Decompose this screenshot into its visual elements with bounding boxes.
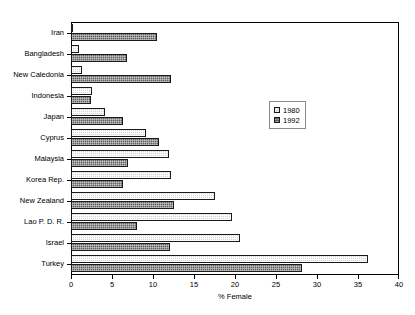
bar-1980-israel (71, 234, 240, 242)
legend-label-1992: 1992 (283, 116, 300, 125)
bar-1980-malaysia (71, 150, 169, 158)
bar-group (71, 127, 399, 148)
legend-label-1980: 1980 (283, 106, 300, 115)
bar-1992-korea-rep (71, 180, 123, 188)
x-axis-tick (276, 275, 277, 279)
bar-group (71, 64, 399, 85)
bar-group (71, 191, 399, 212)
y-axis-label-bangladesh: Bangladesh (24, 49, 64, 58)
y-axis-label-israel: Israel (46, 238, 64, 247)
bar-1980-new-caledonia (71, 66, 82, 74)
bar-group (71, 22, 399, 43)
x-axis-tick-label: 25 (272, 280, 280, 289)
bar-group (71, 233, 399, 254)
bar-group (71, 149, 399, 170)
y-axis-label-new-caledonia: New Caledonia (13, 70, 64, 79)
y-axis-label-malaysia: Malaysia (34, 154, 64, 163)
x-axis-tick-label: 10 (149, 280, 157, 289)
x-axis-tick-label: 35 (354, 280, 362, 289)
bar-1980-japan (71, 108, 105, 116)
x-axis-tick-label: 0 (69, 280, 73, 289)
bar-1980-new-zealand (71, 192, 215, 200)
bar-1992-cyprus (71, 138, 159, 146)
legend-swatch-1980-icon (274, 107, 280, 113)
y-axis-label-iran: Iran (51, 28, 64, 37)
bar-1992-bangladesh (71, 54, 127, 62)
bar-1980-indonesia (71, 87, 92, 95)
x-axis-tick (358, 275, 359, 279)
bar-1980-lao-p-d-r (71, 213, 232, 221)
bar-1980-korea-rep (71, 171, 171, 179)
bar-1992-malaysia (71, 159, 128, 167)
bar-group (71, 254, 399, 275)
legend: 1980 1992 (269, 101, 306, 129)
y-axis-label-lao-p-d-r: Lao P. D. R. (24, 217, 64, 226)
x-axis-tick-label: 30 (313, 280, 321, 289)
y-axis-label-japan: Japan (44, 112, 64, 121)
bar-1992-new-zealand (71, 201, 174, 209)
bar-group (71, 43, 399, 64)
bar-group (71, 212, 399, 233)
y-axis-category-labels: IranBangladeshNew CaledoniaIndonesiaJapa… (0, 22, 69, 275)
bar-1992-japan (71, 117, 123, 125)
bars-container (71, 22, 399, 275)
x-axis-tick-label: 15 (190, 280, 198, 289)
bar-1980-bangladesh (71, 45, 79, 53)
y-axis-label-turkey: Turkey (41, 259, 64, 268)
bar-1992-indonesia (71, 96, 91, 104)
x-axis-tick-label: 20 (231, 280, 239, 289)
x-axis-tick-label: 5 (110, 280, 114, 289)
bar-1980-turkey (71, 255, 368, 263)
bar-1980-iran (71, 24, 73, 32)
legend-swatch-1992-icon (274, 117, 280, 123)
x-axis-tick-label: 40 (395, 280, 403, 289)
bar-chart: IranBangladeshNew CaledoniaIndonesiaJapa… (0, 0, 415, 315)
y-axis-label-indonesia: Indonesia (31, 91, 64, 100)
y-axis-label-new-zealand: New Zealand (20, 196, 64, 205)
bar-group (71, 85, 399, 106)
x-axis-title: % Female (71, 292, 399, 301)
x-axis-tick (194, 275, 195, 279)
bar-1992-iran (71, 33, 157, 41)
legend-item-1980: 1980 (274, 105, 300, 115)
legend-item-1992: 1992 (274, 115, 300, 125)
y-axis-label-cyprus: Cyprus (40, 133, 64, 142)
bar-1992-new-caledonia (71, 75, 171, 83)
bar-1992-lao-p-d-r (71, 222, 137, 230)
bar-1992-turkey (71, 264, 302, 272)
x-axis-tick (235, 275, 236, 279)
bar-group (71, 170, 399, 191)
y-axis-label-korea-rep: Korea Rep. (26, 175, 64, 184)
x-axis-tick (398, 275, 399, 279)
x-axis-tick (71, 275, 72, 279)
x-axis-tick (317, 275, 318, 279)
x-axis-tick (153, 275, 154, 279)
bar-1980-cyprus (71, 129, 146, 137)
x-axis-tick (112, 275, 113, 279)
bar-1992-israel (71, 243, 170, 251)
bar-group (71, 106, 399, 127)
